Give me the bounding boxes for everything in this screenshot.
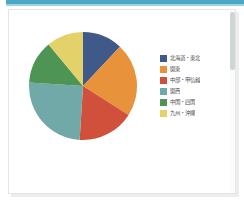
legend-label: 中部・甲信越 <box>170 77 200 84</box>
legend-label: 関東 <box>170 66 180 73</box>
chart-legend: 北海道・東北関東中部・甲信越関西中国・四国九州・沖縄 <box>160 53 232 119</box>
legend-label: 関西 <box>170 88 180 95</box>
app-window: 北海道・東北関東中部・甲信越関西中国・四国九州・沖縄 <box>0 0 244 203</box>
legend-swatch <box>160 66 167 73</box>
pie-chart-figure: 北海道・東北関東中部・甲信越関西中国・四国九州・沖縄 <box>9 10 235 193</box>
window-gutter <box>0 0 8 203</box>
legend-swatch <box>160 99 167 106</box>
card-shadow-right <box>236 12 239 197</box>
legend-label: 九州・沖縄 <box>170 110 195 117</box>
vertical-scrollbar[interactable] <box>230 10 235 193</box>
legend-swatch <box>160 110 167 117</box>
legend-item[interactable]: 中国・四国 <box>160 97 232 108</box>
legend-swatch <box>160 88 167 95</box>
legend-swatch <box>160 77 167 84</box>
legend-item[interactable]: 中部・甲信越 <box>160 75 232 86</box>
legend-item[interactable]: 北海道・東北 <box>160 53 232 64</box>
pie-slice <box>29 83 83 140</box>
content-card: 北海道・東北関東中部・甲信越関西中国・四国九州・沖縄 <box>8 9 236 194</box>
legend-item[interactable]: 関東 <box>160 64 232 75</box>
pie-slice-group <box>29 32 137 140</box>
legend-label: 北海道・東北 <box>170 55 200 62</box>
legend-item[interactable]: 関西 <box>160 86 232 97</box>
legend-item[interactable]: 九州・沖縄 <box>160 108 232 119</box>
top-accent-bar-shade <box>6 4 244 6</box>
legend-label: 中国・四国 <box>170 99 195 106</box>
pie-chart <box>27 30 139 142</box>
card-shadow-bottom <box>11 194 239 197</box>
legend-swatch <box>160 55 167 62</box>
scrollbar-thumb[interactable] <box>230 12 235 70</box>
